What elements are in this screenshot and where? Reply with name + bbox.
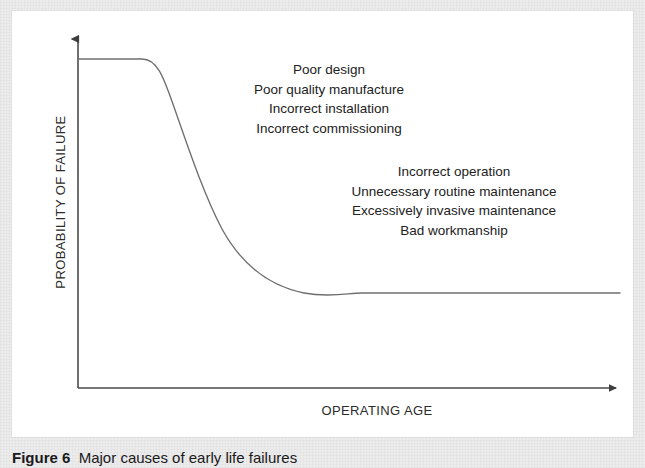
annotation-line: Unnecessary routine maintenance [280, 182, 628, 202]
x-axis-label: OPERATING AGE [212, 403, 542, 418]
annotation-line: Poor quality manufacture [164, 80, 494, 100]
annotation-line: Incorrect commissioning [164, 119, 494, 139]
y-axis-label-text: PROBABILITY OF FAILURE [53, 115, 68, 288]
y-axis-label: PROBABILITY OF FAILURE [50, 0, 70, 415]
annotation-line: Excessively invasive maintenance [280, 201, 628, 221]
figure-caption-text: Major causes of early life failures [79, 449, 297, 466]
figure-caption: Figure 6 Major causes of early life fail… [12, 449, 633, 467]
x-axis-label-text: OPERATING AGE [321, 403, 432, 418]
scanned-page: PROBABILITY OF FAILURE OPERATING AGE Poo… [0, 0, 645, 468]
annotation-line: Incorrect installation [164, 99, 494, 119]
annotation-group-operational-causes: Incorrect operation Unnecessary routine … [280, 162, 628, 240]
annotation-line: Bad workmanship [280, 221, 628, 241]
annotation-group-early-life-causes: Poor design Poor quality manufacture Inc… [164, 60, 494, 138]
figure-panel: PROBABILITY OF FAILURE OPERATING AGE Poo… [12, 11, 633, 437]
annotation-line: Poor design [164, 60, 494, 80]
figure-caption-label: Figure 6 [12, 449, 70, 466]
annotation-line: Incorrect operation [280, 162, 628, 182]
